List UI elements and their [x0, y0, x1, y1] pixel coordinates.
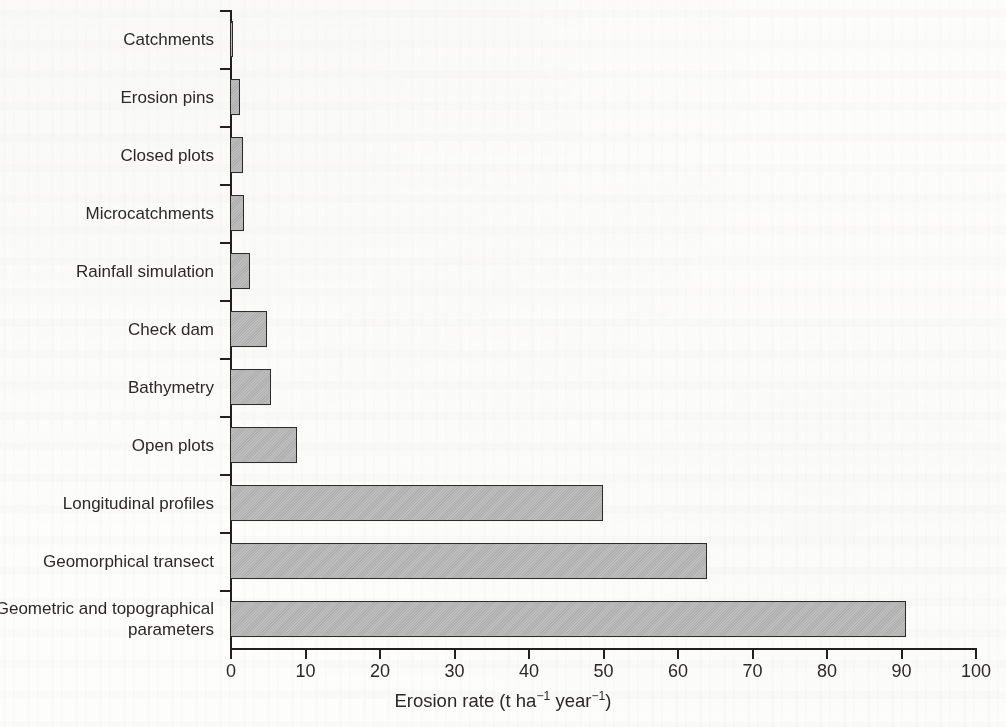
bar-row: Geomorphical transect: [230, 532, 975, 590]
category-label: Catchments: [0, 29, 214, 50]
y-axis-tick: [220, 416, 230, 418]
x-axis-tick-label: 70: [723, 661, 783, 682]
x-axis-tick: [305, 648, 307, 659]
category-label: Longitudinal profiles: [0, 493, 214, 514]
bar-row: Rainfall simulation: [230, 242, 975, 300]
x-axis-tick: [603, 648, 605, 659]
x-axis-tick-label: 30: [425, 661, 485, 682]
bar: [230, 253, 250, 289]
category-label: Open plots: [0, 435, 214, 456]
category-label: Geomorphical transect: [0, 551, 214, 572]
bar-row: Open plots: [230, 416, 975, 474]
category-label: Bathymetry: [0, 377, 214, 398]
y-axis-tick: [220, 300, 230, 302]
bar: [230, 311, 267, 347]
y-axis-tick: [220, 10, 230, 12]
x-axis-tick-label: 50: [574, 661, 634, 682]
bar: [230, 369, 271, 405]
x-axis-tick: [752, 648, 754, 659]
x-axis-tick-label: 80: [797, 661, 857, 682]
category-label: Erosion pins: [0, 87, 214, 108]
y-axis-tick: [220, 590, 230, 592]
axis-title-superscript: −1: [591, 689, 605, 703]
bar: [230, 427, 297, 463]
axis-title-text: Erosion rate (t ha: [394, 690, 536, 711]
bar: [230, 195, 244, 231]
bar: [230, 601, 906, 637]
bar: [230, 543, 707, 579]
axis-title-text: year: [550, 690, 591, 711]
plot-area: CatchmentsErosion pinsClosed plotsMicroc…: [230, 10, 975, 648]
x-axis-tick: [677, 648, 679, 659]
axis-title-text: ): [605, 690, 611, 711]
x-axis-tick-label: 60: [648, 661, 708, 682]
bar: [230, 79, 240, 115]
x-axis-tick-label: 90: [872, 661, 932, 682]
bar: [230, 21, 233, 57]
x-axis-tick: [826, 648, 828, 659]
bar-row: Longitudinal profiles: [230, 474, 975, 532]
x-axis-tick: [379, 648, 381, 659]
x-axis-tick: [528, 648, 530, 659]
x-axis-tick: [901, 648, 903, 659]
axis-title-superscript: −1: [536, 689, 550, 703]
bar-row: Bathymetry: [230, 358, 975, 416]
bar-row: Catchments: [230, 10, 975, 68]
x-axis-tick-label: 100: [946, 661, 1006, 682]
category-label: Check dam: [0, 319, 214, 340]
y-axis-tick: [220, 532, 230, 534]
bar-row: Closed plots: [230, 126, 975, 184]
x-axis-tick: [975, 648, 977, 659]
bar-row: Check dam: [230, 300, 975, 358]
y-axis-tick: [220, 126, 230, 128]
x-axis-tick: [230, 648, 232, 659]
y-axis-tick: [220, 184, 230, 186]
category-label: Closed plots: [0, 145, 214, 166]
category-label: Geometric and topographical parameters: [0, 598, 214, 640]
x-axis-tick-label: 0: [201, 661, 261, 682]
x-axis-title: Erosion rate (t ha−1 year−1): [0, 690, 1006, 712]
bar: [230, 137, 243, 173]
bar-row: Microcatchments: [230, 184, 975, 242]
x-axis-tick-label: 20: [350, 661, 410, 682]
category-label: Microcatchments: [0, 203, 214, 224]
y-axis-tick: [220, 68, 230, 70]
bar-row: Erosion pins: [230, 68, 975, 126]
category-label: Rainfall simulation: [0, 261, 214, 282]
figure-page: CatchmentsErosion pinsClosed plotsMicroc…: [0, 0, 1006, 727]
bar: [230, 485, 603, 521]
x-axis-tick-label: 10: [276, 661, 336, 682]
y-axis-tick: [220, 358, 230, 360]
x-axis-tick-label: 40: [499, 661, 559, 682]
y-axis-tick: [220, 242, 230, 244]
x-axis-tick: [454, 648, 456, 659]
erosion-rate-bar-chart: CatchmentsErosion pinsClosed plotsMicroc…: [0, 0, 1006, 727]
bar-row: Geometric and topographical parameters: [230, 590, 975, 648]
y-axis-tick: [220, 474, 230, 476]
